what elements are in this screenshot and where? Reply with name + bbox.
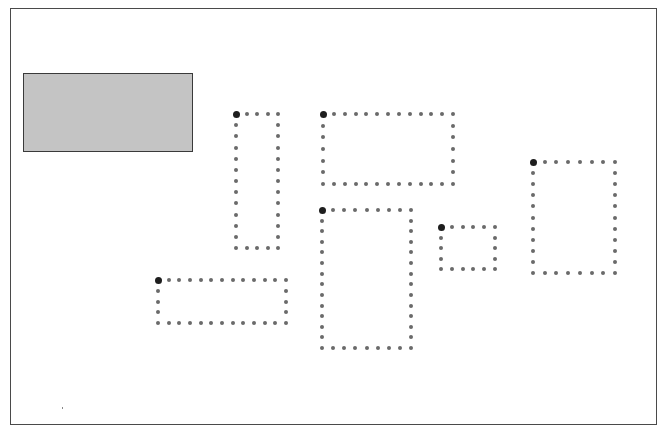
outline-dot xyxy=(613,227,617,231)
outline-dot xyxy=(450,267,454,271)
outline-dot xyxy=(419,112,423,116)
outline-dot xyxy=(578,160,582,164)
outline-dot xyxy=(398,208,402,212)
anchor-handle-icon[interactable] xyxy=(438,224,445,231)
outline-dot xyxy=(398,346,402,350)
outline-dot xyxy=(276,112,280,116)
outline-dot xyxy=(531,238,535,242)
outline-dot xyxy=(321,159,325,163)
outline-dot xyxy=(234,213,238,217)
outline-dot xyxy=(234,235,238,239)
outline-dot xyxy=(234,157,238,161)
outline-dot xyxy=(408,112,412,116)
outline-dot xyxy=(156,321,160,325)
outline-dot xyxy=(397,182,401,186)
outline-dot xyxy=(409,325,413,329)
outline-dot xyxy=(245,246,249,250)
outline-dot xyxy=(263,321,267,325)
outline-dot xyxy=(409,219,413,223)
outline-dot xyxy=(386,182,390,186)
outline-dot xyxy=(276,157,280,161)
outline-dot xyxy=(231,321,235,325)
outline-dot xyxy=(613,260,617,264)
anchor-handle-icon[interactable] xyxy=(233,111,240,118)
outline-dot xyxy=(439,246,443,250)
outline-dot xyxy=(451,112,455,116)
outline-dot xyxy=(409,240,413,244)
outline-dot xyxy=(493,267,497,271)
outline-dot xyxy=(199,278,203,282)
outline-dot xyxy=(343,182,347,186)
outline-dot xyxy=(408,182,412,186)
filled-gray-rectangle[interactable] xyxy=(23,73,193,152)
outline-dot xyxy=(419,182,423,186)
outline-dot xyxy=(493,236,497,240)
outline-dot xyxy=(409,346,413,350)
outline-dot xyxy=(365,346,369,350)
anchor-handle-icon[interactable] xyxy=(530,159,537,166)
outline-dot xyxy=(266,112,270,116)
outline-dot xyxy=(543,160,547,164)
outline-dot xyxy=(276,224,280,228)
outline-dot xyxy=(387,208,391,212)
outline-dot xyxy=(531,271,535,275)
outline-dot xyxy=(613,249,617,253)
outline-dot xyxy=(320,346,324,350)
outline-dot xyxy=(531,249,535,253)
anchor-handle-icon[interactable] xyxy=(319,207,326,214)
outline-dot xyxy=(439,257,443,261)
outline-dot xyxy=(409,293,413,297)
outline-dot xyxy=(234,224,238,228)
outline-dot xyxy=(167,278,171,282)
outline-dot xyxy=(387,346,391,350)
outline-dot xyxy=(450,225,454,229)
outline-dot xyxy=(590,271,594,275)
outline-dot xyxy=(156,289,160,293)
anchor-handle-icon[interactable] xyxy=(320,111,327,118)
outline-dot xyxy=(252,278,256,282)
outline-dot xyxy=(320,272,324,276)
outline-dot xyxy=(354,182,358,186)
outline-dot xyxy=(234,179,238,183)
outline-dot xyxy=(409,304,413,308)
outline-dot xyxy=(332,112,336,116)
outline-dot xyxy=(451,147,455,151)
drawing-stage xyxy=(0,0,663,431)
outline-dot xyxy=(613,160,617,164)
outline-dot xyxy=(276,235,280,239)
outline-dot xyxy=(252,321,256,325)
outline-dot xyxy=(220,278,224,282)
outline-dot xyxy=(284,321,288,325)
outline-dot xyxy=(320,325,324,329)
outline-dot xyxy=(255,112,259,116)
outline-dot xyxy=(320,293,324,297)
outline-dot xyxy=(531,227,535,231)
outline-dot xyxy=(234,246,238,250)
outline-dot xyxy=(321,124,325,128)
outline-dot xyxy=(284,278,288,282)
drawing-canvas[interactable] xyxy=(10,8,657,425)
outline-dot xyxy=(613,216,617,220)
anchor-handle-icon[interactable] xyxy=(155,277,162,284)
stray-mark xyxy=(62,407,63,409)
outline-dot xyxy=(276,146,280,150)
outline-dot xyxy=(461,225,465,229)
outline-dot xyxy=(276,168,280,172)
outline-dot xyxy=(276,179,280,183)
outline-dot xyxy=(590,160,594,164)
outline-dot xyxy=(461,267,465,271)
outline-dot xyxy=(343,112,347,116)
outline-dot xyxy=(188,278,192,282)
outline-dot xyxy=(276,213,280,217)
outline-dot xyxy=(613,271,617,275)
outline-dot xyxy=(376,346,380,350)
outline-dot xyxy=(531,260,535,264)
outline-dot xyxy=(397,112,401,116)
outline-dot xyxy=(451,159,455,163)
outline-dot xyxy=(493,225,497,229)
outline-dot xyxy=(266,246,270,250)
outline-dot xyxy=(493,257,497,261)
outline-dot xyxy=(284,289,288,293)
outline-dot xyxy=(365,208,369,212)
outline-dot xyxy=(234,146,238,150)
